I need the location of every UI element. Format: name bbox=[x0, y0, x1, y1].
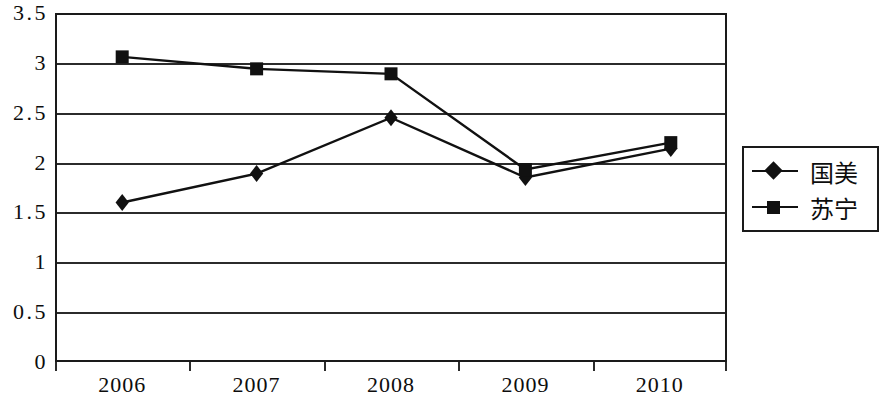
y-tick-label-6: 3 bbox=[35, 50, 49, 76]
x-tick-2 bbox=[324, 362, 326, 371]
gridline-2 bbox=[57, 163, 725, 165]
gridline-2-5 bbox=[57, 113, 725, 115]
y-tick-label-5: 2.5 bbox=[13, 100, 48, 126]
x-tick-3 bbox=[458, 362, 460, 371]
gridline-1 bbox=[57, 262, 725, 264]
x-tick-label-2006: 2006 bbox=[98, 372, 146, 398]
y-axis-labels: 0 0.5 1 1.5 2 2.5 3 3.5 bbox=[0, 0, 48, 398]
legend-item-suning: 苏宁 bbox=[752, 192, 858, 222]
y-tick-label-7: 3.5 bbox=[13, 0, 48, 26]
x-tick-label-2008: 2008 bbox=[367, 372, 415, 398]
square-marker-icon bbox=[752, 197, 798, 217]
gridline-3 bbox=[57, 63, 725, 65]
x-tick-label-2007: 2007 bbox=[233, 372, 281, 398]
legend-item-guomei: 国美 bbox=[752, 156, 858, 186]
gridline-1-5 bbox=[57, 212, 725, 214]
x-tick-0 bbox=[55, 362, 57, 371]
x-tick-5 bbox=[725, 362, 727, 371]
legend: 国美 苏宁 bbox=[742, 146, 879, 232]
y-tick-label-0: 0 bbox=[35, 349, 49, 375]
y-tick-label-1: 0.5 bbox=[13, 299, 48, 325]
y-tick-label-2: 1 bbox=[35, 249, 49, 275]
diamond-marker-icon bbox=[752, 161, 798, 181]
gridline-0-5 bbox=[57, 312, 725, 314]
x-axis-ticks bbox=[55, 362, 727, 372]
legend-label-guomei: 国美 bbox=[810, 154, 858, 189]
y-tick-label-3: 1.5 bbox=[13, 199, 48, 225]
x-axis-labels: 2006 2007 2008 2009 2010 bbox=[55, 372, 727, 398]
x-tick-1 bbox=[189, 362, 191, 371]
legend-label-suning: 苏宁 bbox=[810, 190, 858, 225]
line-chart: 0 0.5 1 1.5 2 2.5 3 3.5 2006 2007 2008 2… bbox=[0, 0, 879, 398]
x-tick-4 bbox=[593, 362, 595, 371]
plot-area bbox=[55, 13, 727, 362]
y-tick-label-4: 2 bbox=[35, 150, 49, 176]
x-tick-label-2010: 2010 bbox=[636, 372, 684, 398]
x-tick-label-2009: 2009 bbox=[501, 372, 549, 398]
